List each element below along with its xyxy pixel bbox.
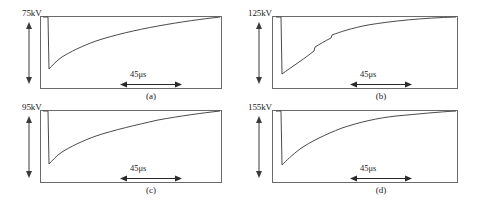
panel-b-caption: (b) [358, 92, 404, 101]
panel-b-yaxis-label: 125kV [248, 9, 272, 18]
panel-c-time-arrow [120, 174, 182, 183]
panel-d-time-arrow [350, 174, 412, 183]
panel-c-caption: (c) [128, 186, 174, 195]
panel-d-trace [276, 111, 456, 165]
panel-b-time-arrow [350, 80, 412, 89]
panel-a-trace [43, 17, 220, 69]
panel-c-trace [43, 111, 220, 164]
panel-d-yaxis-arrow [252, 116, 266, 178]
panel-d-time-label: 45μs [360, 164, 376, 173]
figure-container: 75kV 45μs (a) 125kV [0, 0, 480, 216]
panel-a-yaxis-label: 75kV [22, 9, 42, 18]
panel-b-time-label: 45μs [360, 70, 376, 79]
panel-c-time-label: 45μs [130, 164, 146, 173]
panel-a-yaxis-arrow [22, 22, 36, 84]
panel-b-yaxis-arrow [252, 22, 266, 84]
panel-a-time-label: 45μs [130, 70, 146, 79]
panel-d-caption: (d) [358, 186, 404, 195]
panel-c-yaxis-label: 95kV [22, 103, 42, 112]
panel-a-time-arrow [120, 80, 182, 89]
panel-c-yaxis-arrow [22, 116, 36, 178]
panel-a-caption: (a) [128, 92, 174, 101]
panel-b-trace [276, 17, 456, 74]
panel-d-yaxis-label: 155kV [248, 103, 272, 112]
